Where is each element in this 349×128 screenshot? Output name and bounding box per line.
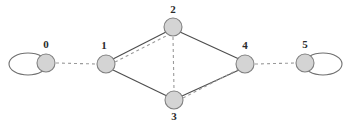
graph-figure: 012345: [0, 0, 349, 128]
edge-2-3-dashed: [173, 37, 174, 90]
diagram-canvas: 012345: [0, 0, 349, 128]
graph-node-3[interactable]: [165, 91, 183, 109]
graph-node-label-1: 1: [101, 39, 107, 51]
graph-node-2[interactable]: [164, 18, 182, 36]
graph-node-4[interactable]: [236, 55, 254, 73]
graph-node-label-2: 2: [170, 3, 176, 15]
edge-0-1-dashed: [56, 63, 96, 64]
graph-node-label-0: 0: [43, 38, 49, 50]
graph-node-0[interactable]: [37, 54, 55, 72]
graph-node-label-3: 3: [171, 110, 177, 122]
graph-node-5[interactable]: [296, 54, 314, 72]
graph-node-1[interactable]: [97, 55, 115, 73]
nodes-layer: [37, 18, 314, 109]
edge-1-2-solid: [113, 32, 166, 59]
edge-3-4-solid: [182, 70, 239, 96]
edge-1-2-dashed: [115, 35, 168, 62]
graph-node-label-5: 5: [302, 38, 308, 50]
edge-4-5-dashed: [255, 63, 295, 64]
edge-3-4-dashed: [183, 68, 241, 98]
edge-1-3-solid: [113, 70, 167, 96]
edges-layer: [56, 32, 295, 98]
self-loops-layer: [9, 53, 342, 75]
graph-node-label-4: 4: [242, 39, 248, 51]
edge-2-4-solid: [180, 32, 239, 59]
